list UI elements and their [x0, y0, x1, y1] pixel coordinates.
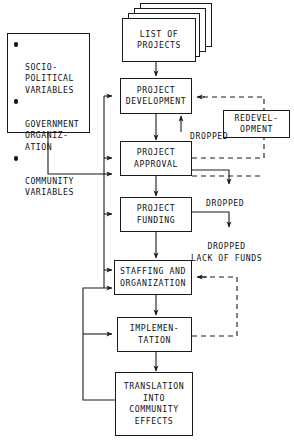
edge-label-dropped-approval-text: DROPPED: [206, 198, 244, 208]
node-list-of-projects[interactable]: LIST OF PROJECTS: [122, 18, 196, 62]
node-project-approval[interactable]: PROJECT APPROVAL: [120, 141, 192, 176]
node-redevelopment[interactable]: REDEVEL- OPMENT: [223, 110, 290, 138]
edge-label-dropped-development-text: DROPPED: [190, 131, 228, 141]
node-implementation-label: IMPLEMEN- TATION: [128, 323, 181, 346]
node-list-of-projects-label: LIST OF PROJECTS: [135, 29, 183, 52]
node-staffing-and-organization[interactable]: STAFFING AND ORGANIZATION: [114, 260, 192, 295]
node-project-approval-label: PROJECT APPROVAL: [132, 147, 180, 170]
contextual-variable-item: COMMUNITY VARIABLES: [12, 153, 85, 199]
bullet-icon: [14, 156, 18, 160]
edge-translation-feedback-staffing: [83, 288, 115, 400]
contextual-variable-label: GOVERNMENT ORGANIZ- ATION: [25, 119, 79, 152]
contextual-variable-item: SOCIO- POLITICAL VARIABLES: [12, 39, 85, 96]
node-translation-label: TRANSLATION INTO COMMUNITY EFFECTS: [122, 381, 186, 427]
contextual-variable-label: SOCIO- POLITICAL VARIABLES: [25, 62, 74, 95]
edge-label-dropped-lack-of-funds-text: DROPPED LACK OF FUNDS: [191, 241, 262, 262]
node-implementation[interactable]: IMPLEMEN- TATION: [117, 317, 192, 352]
node-redevelopment-label: REDEVEL- OPMENT: [233, 113, 281, 136]
node-project-funding[interactable]: PROJECT FUNDING: [120, 197, 192, 232]
bullet-icon: [14, 42, 18, 46]
node-translation-into-community-effects[interactable]: TRANSLATION INTO COMMUNITY EFFECTS: [115, 372, 193, 436]
bullet-icon: [14, 99, 18, 103]
flowchart-canvas: LIST OF PROJECTS SOCIO- POLITICAL VARIAB…: [0, 0, 294, 441]
node-project-development-label: PROJECT DEVELOPMENT: [124, 85, 188, 108]
contextual-variables-box[interactable]: SOCIO- POLITICAL VARIABLES GOVERNMENT OR…: [7, 33, 90, 133]
edge-label-dropped-lack-of-funds: DROPPED LACK OF FUNDS: [191, 230, 262, 264]
edge-funding-dropped: [192, 212, 229, 227]
contextual-variable-item: GOVERNMENT ORGANIZ- ATION: [12, 96, 85, 153]
contextual-variables-list: SOCIO- POLITICAL VARIABLES GOVERNMENT OR…: [12, 39, 85, 199]
contextual-variable-label: COMMUNITY VARIABLES: [25, 176, 74, 197]
node-project-funding-label: PROJECT FUNDING: [135, 203, 177, 226]
edge-approval-dropped: [192, 170, 229, 184]
edge-implementation-to-staffing-dashed: [192, 277, 237, 336]
node-staffing-and-organization-label: STAFFING AND ORGANIZATION: [118, 266, 188, 289]
edge-label-dropped-approval: DROPPED: [206, 187, 244, 210]
edge-label-dropped-development: DROPPED: [190, 120, 228, 143]
node-project-development[interactable]: PROJECT DEVELOPMENT: [120, 78, 192, 114]
